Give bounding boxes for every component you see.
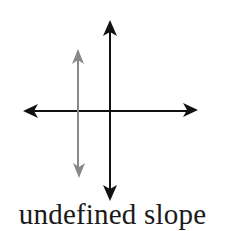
coordinate-diagram bbox=[0, 0, 225, 231]
diagram-caption: undefined slope bbox=[0, 198, 225, 230]
undefined-slope-line bbox=[72, 49, 85, 178]
